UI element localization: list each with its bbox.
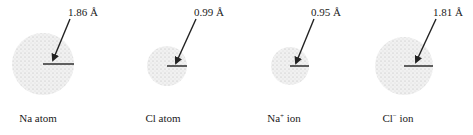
cl-atom-sphere-group	[147, 19, 196, 86]
species-type: atom	[32, 112, 57, 124]
element-symbol: Cl	[382, 112, 392, 124]
na-ion-radius-label: 0.95 Å	[311, 6, 341, 18]
na-ion-caption: Na+ ion	[267, 112, 301, 124]
na-atom-sphere-group	[12, 19, 74, 95]
cl-ion-radius-label: 1.81 Å	[433, 6, 463, 18]
element-symbol: Na	[267, 112, 280, 124]
species-type: ion	[397, 112, 414, 124]
element-symbol: Na	[19, 112, 32, 124]
species-type: ion	[284, 112, 301, 124]
na-atom-caption: Na atom	[19, 112, 57, 124]
cl-ion-caption: Cl− ion	[382, 112, 413, 124]
na-atom-radius-label: 1.86 Å	[68, 6, 98, 18]
cl-atom-caption: Cl atom	[145, 112, 180, 124]
cl-ion-sphere-group	[375, 19, 436, 95]
species-type: atom	[156, 112, 181, 124]
na-ion-sphere-group	[271, 19, 314, 85]
cl-atom-radius-label: 0.99 Å	[194, 6, 224, 18]
element-symbol: Cl	[145, 112, 155, 124]
cl-atom-arrow-icon	[176, 19, 196, 63]
